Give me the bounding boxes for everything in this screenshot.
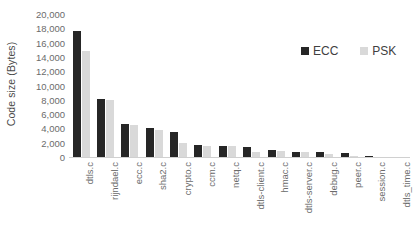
bar-group [386,15,410,158]
bar-ecc [121,124,129,158]
bar-ecc [97,99,105,158]
y-axis-tick-labels: 02,0004,0006,0008,00010,00012,00014,0001… [22,15,68,158]
y-axis-tick-label: 10,000 [36,82,65,92]
y-axis-tick-label: 20,000 [36,10,65,20]
bar-group [142,15,166,158]
y-axis-title-text: Code size (Bytes) [5,42,17,127]
y-axis-title: Code size (Bytes) [0,0,22,168]
legend-entry-ecc[interactable]: ECC [301,45,338,57]
x-axis-tick-cell: rijndael.c [93,160,117,234]
bar-group [69,15,93,158]
bar-ecc [170,132,178,158]
bar-group [288,15,312,158]
bar-ecc [73,31,81,158]
x-axis-tick-label: dtls_time.c [402,162,412,207]
x-axis-tick-cell: dtls-client.c [240,160,264,234]
bar-group [264,15,288,158]
x-axis-tick-cell: ecc.c [118,160,142,234]
legend-swatch-icon [301,47,309,55]
x-axis-tick-cell: sha2.c [142,160,166,234]
x-axis-tick-cell: peer.c [337,160,361,234]
bar-psk [179,143,187,158]
y-axis-tick-label: 12,000 [36,67,65,77]
bar-group [93,15,117,158]
plot-area: ECCPSK [69,15,410,158]
x-axis-tick-cell: dtls_time.c [386,160,410,234]
bar-group [361,15,385,158]
x-axis-tick-cell: ccm.c [191,160,215,234]
legend-entry-psk[interactable]: PSK [360,45,396,57]
bar-psk [82,51,90,158]
y-axis-tick-label: 16,000 [36,39,65,49]
chart-legend: ECCPSK [301,45,396,57]
bar-group [313,15,337,158]
bar-group [118,15,142,158]
x-axis-tick-cell: dtls.c [69,160,93,234]
bar-ecc [146,128,154,158]
legend-label: ECC [313,45,338,57]
bars-layer [69,15,410,158]
x-axis-tick-cell: debug.c [313,160,337,234]
bar-group [215,15,239,158]
x-axis-tick-cell: dtls-server.c [288,160,312,234]
y-axis-tick-label: 4,000 [41,125,65,135]
bar-chart: Code size (Bytes) 02,0004,0006,0008,0001… [0,0,416,234]
bar-group [337,15,361,158]
bar-psk [155,130,163,158]
y-axis-tick-label: 8,000 [41,96,65,106]
bar-group [191,15,215,158]
y-axis-tick-label: 6,000 [41,110,65,120]
bar-psk [130,125,138,158]
legend-swatch-icon [360,47,368,55]
bar-psk [106,100,114,158]
bar-group [240,15,264,158]
y-axis-tick-label: 0 [60,153,65,163]
y-axis-tick-label: 2,000 [41,139,65,149]
x-axis-tick-cell: hmac.c [264,160,288,234]
bar-group [166,15,190,158]
x-axis-baseline [69,157,410,158]
legend-label: PSK [372,45,396,57]
x-axis-tick-cell: crypto.c [166,160,190,234]
x-axis-tick-cell: session.c [361,160,385,234]
x-axis-tick-labels: dtls.crijndael.cecc.csha2.ccrypto.cccm.c… [69,160,410,234]
y-axis-tick-label: 18,000 [36,25,65,35]
x-axis-tick-cell: netq.c [215,160,239,234]
y-axis-tick-label: 14,000 [36,53,65,63]
